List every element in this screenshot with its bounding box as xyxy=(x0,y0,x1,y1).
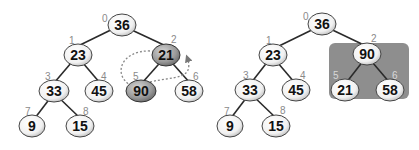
node-index: 6 xyxy=(193,71,199,82)
heap-node: 33 3 xyxy=(39,71,69,102)
node-value: 45 xyxy=(288,82,304,98)
node-value: 36 xyxy=(114,17,130,33)
node-index: 2 xyxy=(371,33,377,44)
node-value: 58 xyxy=(382,82,398,98)
node-value: 58 xyxy=(181,83,197,99)
node-index: 4 xyxy=(101,71,107,82)
node-index: 3 xyxy=(243,70,249,81)
node-index: 3 xyxy=(45,71,51,82)
heap-node: 15 8 xyxy=(66,106,94,137)
node-index: 7 xyxy=(25,106,31,117)
heap-node: 58 6 xyxy=(175,71,203,102)
node-index: 1 xyxy=(266,35,272,46)
node-value: 21 xyxy=(337,82,353,98)
heap-node: 23 1 xyxy=(64,35,92,66)
heap-node-highlighted: 21 2 xyxy=(152,34,180,66)
node-index: 5 xyxy=(133,71,139,82)
heap-node: 33 3 xyxy=(235,70,265,101)
node-index: 5 xyxy=(333,70,339,81)
node-index: 0 xyxy=(102,13,108,24)
tree-after: 36 0 23 1 90 2 33 3 45 4 21 xyxy=(217,11,409,137)
heap-swap-diagram: 36 0 23 1 21 2 33 3 45 4 90 xyxy=(0,0,419,150)
node-value: 23 xyxy=(70,47,86,63)
heap-node: 45 4 xyxy=(85,71,113,102)
heap-node: 15 8 xyxy=(262,105,290,137)
node-value: 33 xyxy=(46,83,62,99)
node-value: 45 xyxy=(91,83,107,99)
node-value: 21 xyxy=(158,47,174,63)
node-value: 36 xyxy=(314,16,330,32)
node-value: 15 xyxy=(268,118,284,134)
heap-node-highlighted: 90 5 xyxy=(126,71,156,102)
heap-node: 45 4 xyxy=(282,70,310,101)
tree-before: 36 0 23 1 21 2 33 3 45 4 90 xyxy=(19,13,203,137)
node-index: 8 xyxy=(83,106,89,117)
node-index: 8 xyxy=(280,105,286,116)
node-value: 33 xyxy=(242,82,258,98)
node-index: 6 xyxy=(392,70,398,81)
node-index: 4 xyxy=(300,70,306,81)
node-index: 2 xyxy=(171,34,177,45)
heap-node: 90 2 xyxy=(353,33,381,65)
node-value: 9 xyxy=(28,118,36,134)
node-index: 1 xyxy=(69,35,75,46)
node-value: 15 xyxy=(72,118,88,134)
heap-node: 9 7 xyxy=(217,106,243,137)
node-value: 90 xyxy=(133,83,149,99)
node-index: 0 xyxy=(303,11,309,22)
heap-node: 23 1 xyxy=(259,35,287,66)
node-value: 90 xyxy=(359,46,375,62)
node-index: 7 xyxy=(224,106,230,117)
node-value: 23 xyxy=(265,47,281,63)
node-value: 9 xyxy=(226,118,234,134)
